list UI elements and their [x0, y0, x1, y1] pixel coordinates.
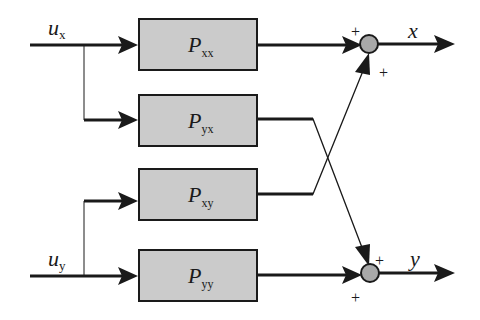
block-diagram: ux uy Pxx Pyx Pxy Pyy	[0, 0, 480, 320]
sign-plus: +	[379, 64, 388, 81]
output-label-x: x	[407, 18, 418, 43]
arrow-head-icon	[355, 244, 370, 266]
connection-Pyy-sumy	[257, 266, 362, 284]
connection-Pxy-sumx	[257, 53, 370, 194]
block-Pxy: Pxy	[139, 169, 257, 220]
connection-Pxx-sumx	[257, 36, 362, 54]
sign-plus: +	[351, 23, 360, 40]
output-y: y	[379, 246, 455, 282]
input-ux-path	[30, 36, 138, 129]
block-Pyy: Pyy	[139, 250, 257, 301]
input-label-uy: uy	[48, 246, 66, 273]
output-x: x	[378, 18, 455, 53]
sign-plus: +	[351, 289, 360, 306]
block-Pxx: Pxx	[139, 19, 257, 70]
input-label-ux: ux	[48, 15, 66, 42]
arrow-head-icon	[355, 53, 370, 75]
sign-plus: +	[375, 252, 384, 269]
output-label-y: y	[408, 246, 420, 271]
input-uy-path	[30, 192, 138, 285]
block-Pyx: Pyx	[139, 95, 257, 146]
